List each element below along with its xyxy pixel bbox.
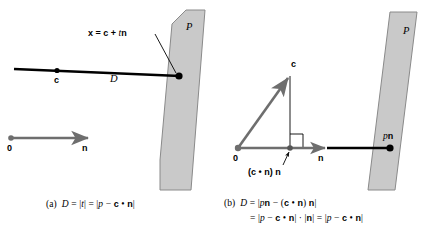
panel-b-graphics <box>235 12 417 190</box>
caption-b-n2: n <box>297 198 303 208</box>
caption-b-eq: = <box>250 198 255 208</box>
caption-b-n5: n <box>307 213 313 223</box>
plane-b-shape <box>368 12 417 190</box>
vector-c-b <box>238 78 288 148</box>
caption-b-n1: n <box>265 198 271 208</box>
caption-b-line2: = |p − c • n| · |n| = |p − c • n| <box>250 214 363 224</box>
point-pn-label: pn <box>383 126 393 142</box>
ray-eq-plus: + <box>108 28 118 38</box>
vector-c-b-label: c <box>291 60 296 69</box>
caption-a-eq1: = | <box>71 199 81 209</box>
origin-b-label: 0 <box>233 154 238 163</box>
caption-b-n3: n <box>309 198 315 208</box>
caption-b-eq2: = <box>250 213 255 223</box>
plane-b-label: P <box>403 26 409 37</box>
caption-b-p2: p <box>260 213 265 223</box>
normal-a-label: n <box>82 144 88 153</box>
caption-a-dot: • <box>119 199 127 209</box>
caption-b-p3: p <box>327 213 332 223</box>
ray-eq-n: n <box>121 28 127 38</box>
caption-b-c3: c <box>342 213 347 223</box>
normal-b-label: n <box>318 154 324 163</box>
caption-b-dot1: • <box>292 198 295 208</box>
ray-equation-label: x = c + tn <box>88 28 127 38</box>
point-c-a <box>54 68 59 73</box>
point-c-a-label: c <box>54 76 59 85</box>
projection-label-pointer <box>283 152 289 165</box>
right-angle-marker <box>290 134 303 147</box>
projection-dot: • <box>256 167 264 177</box>
caption-b-cdot: · <box>299 213 302 223</box>
ray-line-a <box>14 69 180 76</box>
caption-a-D: D <box>62 199 69 209</box>
projection-close: ) <box>270 167 273 177</box>
caption-b-c1: c <box>284 198 289 208</box>
caption-b-dot2: • <box>283 213 286 223</box>
projection-n2: n <box>275 167 281 177</box>
caption-a-tag: (a) <box>46 199 57 209</box>
distance-a-label: D <box>110 74 118 85</box>
caption-b-tag: (b) <box>224 198 235 208</box>
caption-b-line1: (b) D = |pn − (c • n) n| <box>224 199 316 209</box>
caption-b-dot3: • <box>350 213 353 223</box>
origin-a-label: 0 <box>7 144 12 153</box>
point-x-intersection <box>175 72 182 79</box>
plane-a-shape <box>160 10 205 190</box>
caption-b-n6: n <box>355 213 361 223</box>
plane-a-label: P <box>186 22 192 33</box>
point-pn-dot <box>386 144 393 151</box>
caption-a-minus: − <box>103 199 113 209</box>
caption-a: (a) D = |t| = |p − c • n| <box>46 200 135 210</box>
caption-b-n4: n <box>289 213 295 223</box>
caption-b-minus3: − <box>334 213 339 223</box>
ray-eq-equals: = <box>93 28 103 38</box>
projection-label: (c • n) n <box>248 168 281 177</box>
caption-a-bareq: | = | <box>84 199 98 209</box>
projection-point-dot <box>287 145 293 151</box>
origin-dot-b <box>235 145 241 151</box>
caption-b-minus1: − <box>273 198 278 208</box>
figure-root: P x = c + tn c D 0 n (a) D = |t| = |p − … <box>0 0 428 234</box>
caption-b-c2: c <box>275 213 280 223</box>
caption-b-eq3: = <box>317 213 322 223</box>
caption-b-D: D <box>240 198 247 208</box>
point-pn-n: n <box>388 131 394 141</box>
caption-b-minus2: − <box>267 213 272 223</box>
caption-a-close: | <box>133 199 135 209</box>
